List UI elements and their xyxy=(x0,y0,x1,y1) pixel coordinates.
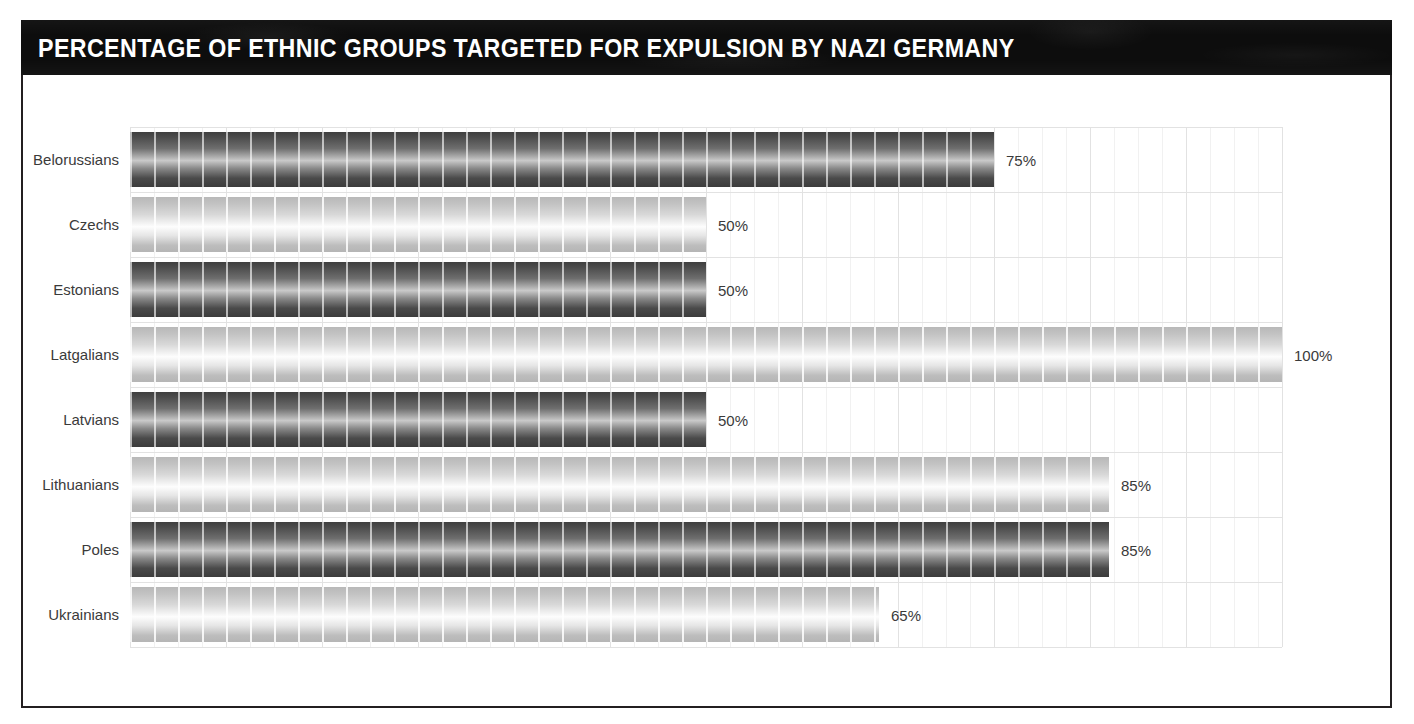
chart-frame: Belorussians75%Czechs50%Estonians50%Latg… xyxy=(21,20,1392,708)
bar xyxy=(130,132,994,187)
bar-track: 85% xyxy=(130,457,1282,512)
bar-value-label: 85% xyxy=(1109,522,1151,577)
bar-row: Poles85% xyxy=(23,517,1394,582)
bar-row: Latgalians100% xyxy=(23,322,1394,387)
bar-row: Estonians50% xyxy=(23,257,1394,322)
bar-value-label: 85% xyxy=(1109,457,1151,512)
gridline-horizontal xyxy=(130,647,1282,648)
category-label: Lithuanians xyxy=(23,452,119,517)
bar-value-label: 50% xyxy=(706,197,748,252)
category-label: Latvians xyxy=(23,387,119,452)
bar-row: Ukrainians65% xyxy=(23,582,1394,647)
bar-track: 75% xyxy=(130,132,1282,187)
bar-track: 100% xyxy=(130,327,1282,382)
bar-row: Lithuanians85% xyxy=(23,452,1394,517)
bar-track: 50% xyxy=(130,392,1282,447)
bar-track: 85% xyxy=(130,522,1282,577)
bar-row: Latvians50% xyxy=(23,387,1394,452)
category-label: Belorussians xyxy=(23,127,119,192)
category-label: Czechs xyxy=(23,192,119,257)
title-band: PERCENTAGE OF ETHNIC GROUPS TARGETED FOR… xyxy=(21,20,1392,75)
bar-value-label: 50% xyxy=(706,392,748,447)
bar-value-label: 75% xyxy=(994,132,1036,187)
plot-area: Belorussians75%Czechs50%Estonians50%Latg… xyxy=(23,77,1394,708)
category-label: Poles xyxy=(23,517,119,582)
category-label: Latgalians xyxy=(23,322,119,387)
bar-row: Czechs50% xyxy=(23,192,1394,257)
bar-value-label: 65% xyxy=(879,587,921,642)
category-label: Ukrainians xyxy=(23,582,119,647)
category-label: Estonians xyxy=(23,257,119,322)
bar xyxy=(130,197,706,252)
bar xyxy=(130,522,1109,577)
bar xyxy=(130,457,1109,512)
bar xyxy=(130,327,1282,382)
bar-track: 65% xyxy=(130,587,1282,642)
chart-title: PERCENTAGE OF ETHNIC GROUPS TARGETED FOR… xyxy=(38,20,1015,75)
bar-value-label: 100% xyxy=(1282,327,1332,382)
bar-value-label: 50% xyxy=(706,262,748,317)
bar-track: 50% xyxy=(130,262,1282,317)
bar-row: Belorussians75% xyxy=(23,127,1394,192)
bar xyxy=(130,392,706,447)
bar xyxy=(130,587,879,642)
bar xyxy=(130,262,706,317)
bar-track: 50% xyxy=(130,197,1282,252)
